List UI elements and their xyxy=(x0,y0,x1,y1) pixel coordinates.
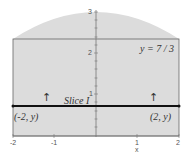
left-up-arrow-icon: ↑ xyxy=(42,91,51,104)
y-tick-label-1: 1 xyxy=(89,90,93,97)
y-tick-label-3: 3 xyxy=(88,8,92,15)
line-equation-label: y = 7 / 3 xyxy=(139,43,174,54)
right-endpoint xyxy=(178,105,181,108)
right-point-label: (2, y) xyxy=(150,111,172,123)
x-tick-label-neg1: -1 xyxy=(51,139,57,146)
right-up-arrow-icon: ↑ xyxy=(149,91,158,104)
x-tick-label-1: 1 xyxy=(135,139,139,146)
slice-label: Slice I xyxy=(64,95,90,106)
x-axis-label: x xyxy=(135,146,139,153)
left-point-label: (-2, y) xyxy=(14,111,39,123)
y-tick-label-2: 2 xyxy=(88,49,92,56)
diagram-canvas: 3 2 1 -2 -1 1 2 x y = 7 / 3 Slice I (-2,… xyxy=(0,0,191,155)
x-tick-label-neg2: -2 xyxy=(10,139,16,146)
x-tick-label-2: 2 xyxy=(176,139,180,146)
left-endpoint xyxy=(12,105,15,108)
